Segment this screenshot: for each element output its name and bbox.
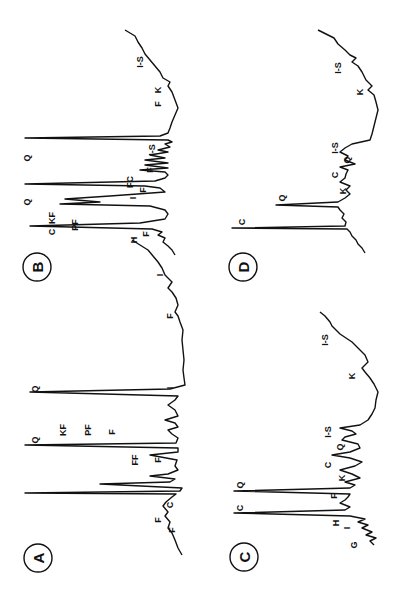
peak-label: PF xyxy=(70,219,80,231)
panel-a-trace xyxy=(25,240,185,555)
panel-c-trace xyxy=(234,312,378,545)
panel-d-peak-labels: CQKCQI-SKI-S xyxy=(237,62,365,225)
xrd-figure: QQKFPFFFFFIFIFFC A QQCKFPFHFIFFCFI-SFKI-… xyxy=(0,0,399,601)
peak-label: C xyxy=(47,228,57,235)
panel-b-chart: QQCKFPFHFIFFCFI-SFKI-S B xyxy=(22,30,178,281)
peak-label: I xyxy=(155,274,165,277)
peak-label: C xyxy=(330,171,340,178)
peak-label: F xyxy=(107,429,117,435)
peak-label: I-S xyxy=(330,142,340,154)
peak-label: PF xyxy=(83,424,93,436)
peak-label: K xyxy=(337,474,347,481)
peak-label: G xyxy=(349,541,359,548)
peak-label: F xyxy=(329,493,339,499)
peak-label: K xyxy=(153,86,163,93)
peak-label: I-S xyxy=(147,144,157,156)
peak-label: F xyxy=(153,517,163,523)
peak-label: FC xyxy=(125,176,135,188)
peak-label: C xyxy=(165,501,175,508)
peak-label: I-S xyxy=(323,426,333,438)
peak-label: K xyxy=(347,372,357,379)
peak-label: C xyxy=(323,461,333,468)
panel-a-letter: A xyxy=(30,552,47,563)
panel-c-letter: C xyxy=(236,551,253,562)
peak-label: C xyxy=(237,218,247,225)
panel-b-letter: B xyxy=(29,261,46,272)
peak-label: Q xyxy=(342,156,352,163)
peak-label: H xyxy=(129,237,139,244)
peak-label: I xyxy=(342,527,352,530)
peak-label: Q xyxy=(30,385,40,392)
peak-label: F xyxy=(167,527,177,533)
peak-label: KF xyxy=(58,424,68,436)
peak-label: C xyxy=(235,504,245,511)
peak-label: Q xyxy=(335,443,345,450)
panel-d-chart: CQKCQI-SKI-S D xyxy=(229,30,378,281)
panel-d-letter: D xyxy=(235,261,252,272)
peak-label: Q xyxy=(22,198,32,205)
peak-label: F xyxy=(153,457,163,463)
panel-d-trace xyxy=(232,30,378,253)
peak-label: I xyxy=(165,387,175,390)
peak-label: I-S xyxy=(333,62,343,74)
peak-label: F xyxy=(145,167,155,173)
peak-label: I-S xyxy=(320,334,330,346)
peak-label: KF xyxy=(47,212,57,224)
peak-label: I xyxy=(128,197,138,200)
peak-label: Q xyxy=(30,436,40,443)
peak-label: F xyxy=(165,313,175,319)
peak-label: K xyxy=(355,88,365,95)
peak-label: Q xyxy=(22,154,32,161)
peak-label: F xyxy=(138,187,148,193)
peak-label: I-S xyxy=(135,56,145,68)
peak-label: Q xyxy=(235,481,245,488)
panel-c-chart: CQGIHFKCQI-SKI-S C xyxy=(230,312,378,571)
peak-label: FF xyxy=(130,454,140,465)
peak-label: Q xyxy=(277,194,287,201)
peak-label: H xyxy=(331,520,341,527)
peak-label: K xyxy=(338,187,348,194)
panel-b-peak-labels: QQCKFPFHFIFFCFI-SFKI-S xyxy=(22,56,163,243)
panel-a-chart: QQKFPFFFFFIFIFFC A xyxy=(24,240,185,572)
peak-label: F xyxy=(141,231,151,237)
peak-label: F xyxy=(153,101,163,107)
